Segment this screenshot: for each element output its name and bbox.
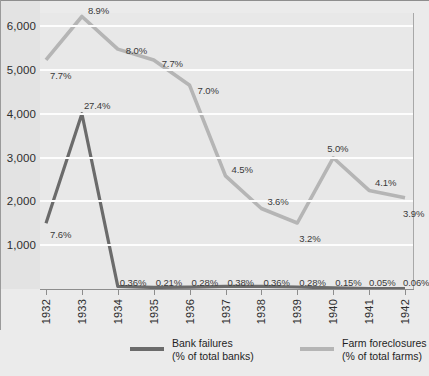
y-axis-tick-label: 2,000 xyxy=(0,195,36,207)
x-axis-tick-mark xyxy=(261,290,262,295)
x-axis-line xyxy=(40,289,414,290)
gridline xyxy=(40,200,413,202)
x-axis-tick-label: 1936 xyxy=(184,299,196,324)
x-axis-tick-mark xyxy=(297,290,298,295)
chart-card: 1,0002,0003,0004,0005,0006,000 193219331… xyxy=(0,0,429,376)
plot-area xyxy=(40,13,413,289)
series-lines xyxy=(40,13,413,289)
x-axis-tick-label: 1934 xyxy=(112,299,124,324)
y-axis-tick-label: 4,000 xyxy=(0,108,36,120)
bank-failure-label: 27.4% xyxy=(84,100,110,111)
farm-foreclosure-label: 3.6% xyxy=(267,196,288,207)
gridline xyxy=(40,69,413,71)
farm-foreclosure-label: 3.2% xyxy=(299,233,320,244)
x-axis-tick-label: 1933 xyxy=(76,299,88,324)
x-axis-tick-mark xyxy=(46,290,47,295)
bank-failure-label: 0.21% xyxy=(156,277,182,288)
x-axis-tick-mark xyxy=(405,290,406,295)
bank-failure-label: 0.36% xyxy=(120,277,146,288)
x-axis-tick-label: 1939 xyxy=(291,299,303,324)
x-axis-tick-label: 1941 xyxy=(363,299,375,324)
legend-label-name: Bank failures xyxy=(172,337,254,350)
bank-failure-label: 0.28% xyxy=(299,277,325,288)
x-axis-tick-mark xyxy=(226,290,227,295)
bank-failure-label: 0.05% xyxy=(369,277,395,288)
farm-foreclosure-label: 4.1% xyxy=(375,177,396,188)
gridline xyxy=(40,113,413,115)
y-axis-tick-label: 3,000 xyxy=(0,152,36,164)
gridline xyxy=(40,157,413,159)
legend-label: Bank failures(% of total banks) xyxy=(172,337,254,362)
plot-right-edge xyxy=(413,13,414,290)
x-axis-tick-mark xyxy=(369,290,370,295)
farm-foreclosure-label: 5.0% xyxy=(327,143,348,154)
farm-foreclosure-label: 7.7% xyxy=(162,58,183,69)
legend-label-units: (% of total banks) xyxy=(172,350,254,363)
bank-failure-label: 0.28% xyxy=(192,277,218,288)
bank-failure-label: 0.38% xyxy=(228,277,254,288)
legend-label-name: Farm foreclosures xyxy=(342,337,427,350)
x-axis-tick-mark xyxy=(154,290,155,295)
x-axis-tick-mark xyxy=(333,290,334,295)
x-axis-tick-mark xyxy=(118,290,119,295)
bank-failure-label: 0.36% xyxy=(263,277,289,288)
y-axis-tick-label: 6,000 xyxy=(0,20,36,32)
legend-label-units: (% of total farms) xyxy=(342,350,427,363)
farm-foreclosures-line xyxy=(46,17,405,224)
y-axis-tick-label: 1,000 xyxy=(0,239,36,251)
y-axis-tick-label: 5,000 xyxy=(0,64,36,76)
legend-label: Farm foreclosures(% of total farms) xyxy=(342,337,427,362)
x-axis-tick-label: 1937 xyxy=(220,299,232,324)
legend-color-swatch xyxy=(130,347,164,351)
bank-failure-label: 0.06% xyxy=(403,277,429,288)
x-axis-tick-label: 1938 xyxy=(255,299,267,324)
x-axis-tick-label: 1940 xyxy=(327,299,339,324)
gridline xyxy=(40,25,413,27)
x-axis-tick-label: 1932 xyxy=(40,299,52,324)
legend-color-swatch xyxy=(300,347,334,351)
farm-foreclosure-label: 7.0% xyxy=(198,85,219,96)
x-axis-tick-mark xyxy=(82,290,83,295)
chart-legend: Bank failures(% of total banks)Farm fore… xyxy=(0,333,429,376)
gridline xyxy=(40,244,413,246)
farm-foreclosure-label: 8.9% xyxy=(88,5,109,16)
x-axis-tick-label: 1935 xyxy=(148,299,160,324)
farm-foreclosure-label: 8.0% xyxy=(126,45,147,56)
farm-foreclosure-label: 4.5% xyxy=(232,164,253,175)
farm-foreclosure-label: 3.9% xyxy=(403,208,424,219)
farm-foreclosure-label: 7.7% xyxy=(50,70,71,81)
x-axis-tick-label: 1942 xyxy=(399,299,411,324)
x-axis-tick-mark xyxy=(190,290,191,295)
bank-failure-label: 0.15% xyxy=(335,277,361,288)
bank-failure-label: 7.6% xyxy=(50,229,71,240)
